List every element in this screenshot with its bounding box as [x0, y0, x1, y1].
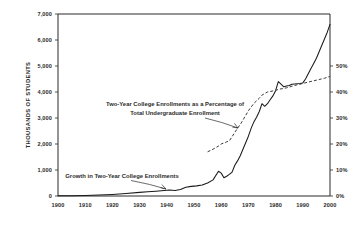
y2-tick-label-30: 30%: [336, 115, 348, 121]
y2-tick-label-20: 20%: [336, 141, 348, 147]
x-tick-label-1940: 1940: [160, 202, 173, 208]
y2-tick-label-10: 10%: [336, 167, 348, 173]
y-axis-title: THOUSANDS OF STUDENTS: [25, 62, 31, 149]
x-tick-label-1980: 1980: [269, 202, 282, 208]
chart-figure: 0 1,000 2,000 3,000 4,000 5,000 6,000 7,…: [0, 0, 360, 229]
y-tick-label-0: 0: [49, 193, 52, 199]
x-tick-label-1950: 1950: [188, 202, 201, 208]
y2-tick-label-50: 50%: [336, 63, 348, 69]
x-tick-label-1970: 1970: [242, 202, 255, 208]
y2-tick-label-0: 0%: [336, 193, 344, 199]
y2-tick-label-40: 40%: [336, 89, 348, 95]
enrollment-chart-svg: 0 1,000 2,000 3,000 4,000 5,000 6,000 7,…: [0, 0, 360, 229]
x-tick-label-1920: 1920: [106, 202, 119, 208]
y-tick-label-2000: 2,000: [38, 141, 53, 147]
y-tick-label-1000: 1,000: [38, 167, 53, 173]
y-tick-label-6000: 6,000: [38, 37, 53, 43]
x-tick-label-1960: 1960: [215, 202, 228, 208]
growth-annotation-line1: Growth in Two-Year College Enrollments: [65, 173, 179, 179]
y-tick-label-7000: 7,000: [38, 11, 53, 17]
x-tick-label-1910: 1910: [79, 202, 92, 208]
y-tick-label-5000: 5,000: [38, 63, 53, 69]
y-tick-label-3000: 3,000: [38, 115, 53, 121]
x-tick-label-1990: 1990: [296, 202, 309, 208]
x-tick-label-1930: 1930: [133, 202, 146, 208]
pct-annotation-line2: Total Undergraduate Enrollment: [130, 110, 220, 116]
x-tick-label-2000: 2000: [324, 202, 337, 208]
pct-annotation-line1: Two-Year College Enrollments as a Percen…: [106, 101, 244, 107]
y-tick-label-4000: 4,000: [38, 89, 53, 95]
x-tick-label-1900: 1900: [52, 202, 65, 208]
